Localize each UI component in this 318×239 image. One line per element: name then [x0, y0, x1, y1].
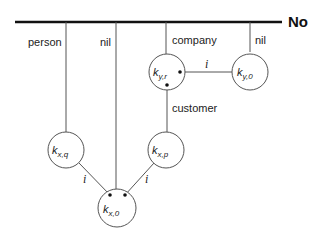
port-dot-right — [178, 70, 182, 74]
label-company: company — [172, 34, 217, 46]
bar-label: No — [288, 13, 308, 30]
node-k-xp: kx,p — [148, 132, 184, 168]
edge-label-xq-x0: i — [83, 172, 86, 186]
edge-label-xp-x0: i — [145, 172, 148, 186]
node-k-y0: ky,0 — [232, 54, 268, 90]
label-nil-left: nil — [100, 36, 111, 48]
edge-label-yr-y0: i — [205, 57, 208, 71]
label-person: person — [28, 36, 62, 48]
port-dot-left — [108, 193, 112, 197]
node-k-x0: kx,0 — [98, 189, 136, 227]
port-dot-bottom — [165, 83, 169, 87]
node-k-xq: kx,q — [48, 132, 84, 168]
tree-diagram: No person nil company nil customer i i i… — [0, 0, 318, 239]
port-dot-right — [123, 193, 127, 197]
label-customer: customer — [172, 102, 218, 114]
edge-xp-x0 — [125, 163, 154, 195]
label-nil-right: nil — [255, 34, 266, 46]
node-k-yr: ky,r — [149, 54, 185, 90]
